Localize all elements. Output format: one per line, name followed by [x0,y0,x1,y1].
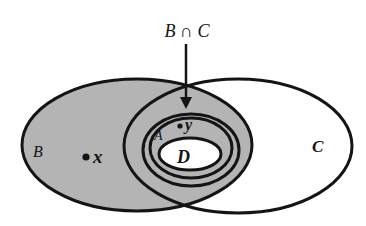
set-b-label: B [33,143,43,160]
set-d-label: D [176,147,190,167]
set-d-ellipse [159,138,221,170]
point-y-label: y [183,116,193,134]
set-c-label: C [312,137,324,156]
point-y-dot [177,123,182,128]
set-a-label: A [153,128,163,143]
point-x-dot [82,153,89,160]
point-x-label: x [92,146,103,167]
venn-svg: B ∩ C B C A D x y [0,0,366,226]
intersection-label: B ∩ C [165,21,211,41]
venn-diagram: B ∩ C B C A D x y [0,0,366,226]
